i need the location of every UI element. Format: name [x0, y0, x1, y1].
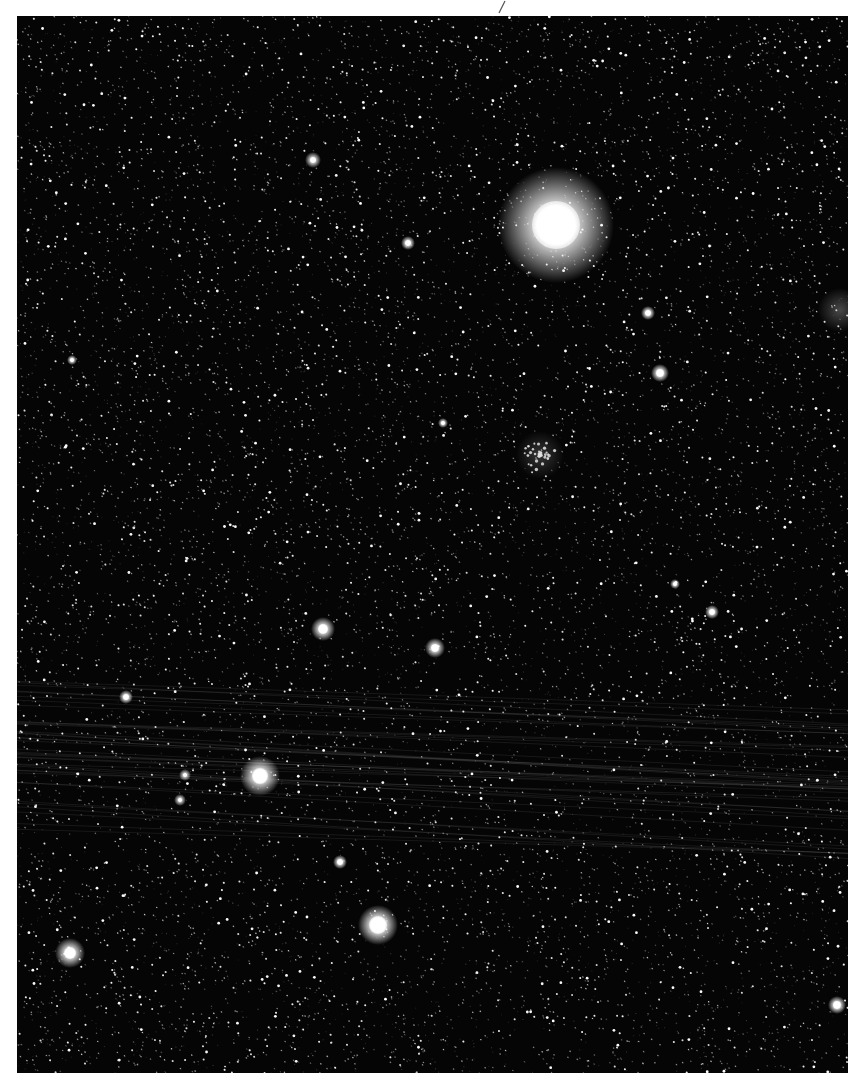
star-field-photo [17, 16, 848, 1073]
star-field-canvas [17, 16, 848, 1073]
top-pen-mark [497, 0, 507, 14]
